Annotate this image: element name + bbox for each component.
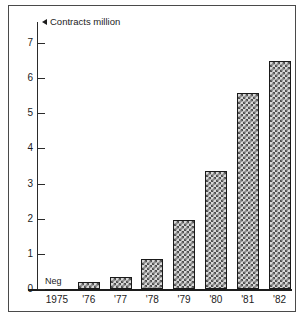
y-tick-6 bbox=[38, 78, 45, 79]
bar-chart-figure: Contracts million 01234567 1975'76'77'78… bbox=[0, 0, 305, 319]
y-tick-label-6: 6 bbox=[17, 73, 33, 83]
y-tick-0 bbox=[38, 289, 45, 290]
bar-77 bbox=[110, 277, 132, 289]
y-tick-label-5: 5 bbox=[17, 108, 33, 118]
left-triangle-icon bbox=[42, 19, 47, 25]
y-tick-label-0: 0 bbox=[17, 284, 33, 294]
y-tick-5 bbox=[38, 113, 45, 114]
y-tick-1 bbox=[38, 254, 45, 255]
y-tick-label-1: 1 bbox=[17, 249, 33, 259]
bar-76 bbox=[78, 282, 100, 289]
y-axis-title-label: Contracts million bbox=[50, 16, 120, 27]
bar-82 bbox=[269, 61, 291, 289]
y-axis-title: Contracts million bbox=[42, 16, 120, 27]
x-label-77: '77 bbox=[105, 294, 137, 305]
y-tick-7 bbox=[38, 43, 45, 44]
x-label-81: '81 bbox=[232, 294, 264, 305]
x-label-80: '80 bbox=[200, 294, 232, 305]
bar-81 bbox=[237, 93, 259, 289]
x-label-1975: 1975 bbox=[41, 294, 73, 305]
y-tick-3 bbox=[38, 184, 45, 185]
neg-annotation: Neg bbox=[45, 276, 62, 286]
x-axis-line bbox=[28, 289, 292, 291]
bar-78 bbox=[141, 259, 163, 289]
x-label-79: '79 bbox=[168, 294, 200, 305]
y-tick-label-2: 2 bbox=[17, 214, 33, 224]
x-label-82: '82 bbox=[264, 294, 296, 305]
x-label-78: '78 bbox=[136, 294, 168, 305]
plot-area: Contracts million 01234567 1975'76'77'78… bbox=[0, 0, 305, 319]
y-tick-label-3: 3 bbox=[17, 179, 33, 189]
y-tick-2 bbox=[38, 219, 45, 220]
y-tick-label-7: 7 bbox=[17, 38, 33, 48]
y-tick-label-4: 4 bbox=[17, 143, 33, 153]
bar-80 bbox=[205, 171, 227, 289]
y-axis-line bbox=[37, 22, 38, 290]
y-tick-4 bbox=[38, 148, 45, 149]
bar-79 bbox=[173, 220, 195, 289]
x-label-76: '76 bbox=[73, 294, 105, 305]
